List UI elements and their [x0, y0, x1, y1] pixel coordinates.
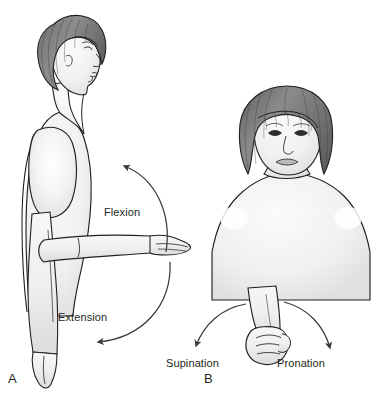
supination-arc: [196, 304, 246, 346]
shoulder-highlight-left: [220, 207, 248, 229]
shoulder-highlight-right: [334, 207, 362, 229]
torso-frontal: [212, 172, 370, 300]
label-flexion: Flexion: [104, 206, 140, 218]
neck-front-line: [82, 92, 84, 134]
panel-b-figure: [196, 86, 370, 365]
extension-arc: [98, 262, 170, 342]
deltoid: [29, 127, 77, 217]
extended-hand: [150, 235, 191, 255]
panel-letter-a: A: [8, 371, 17, 386]
mouth-frontal: [276, 159, 298, 165]
label-extension: Extension: [58, 311, 107, 323]
anatomy-illustration: Flexion Extension Supination Pronation A…: [0, 0, 392, 402]
illustration-canvas: [0, 0, 392, 402]
panel-a-figure: [22, 15, 191, 387]
panel-letter-b: B: [204, 371, 213, 386]
label-pronation: Pronation: [277, 357, 325, 369]
label-supination: Supination: [166, 357, 219, 369]
